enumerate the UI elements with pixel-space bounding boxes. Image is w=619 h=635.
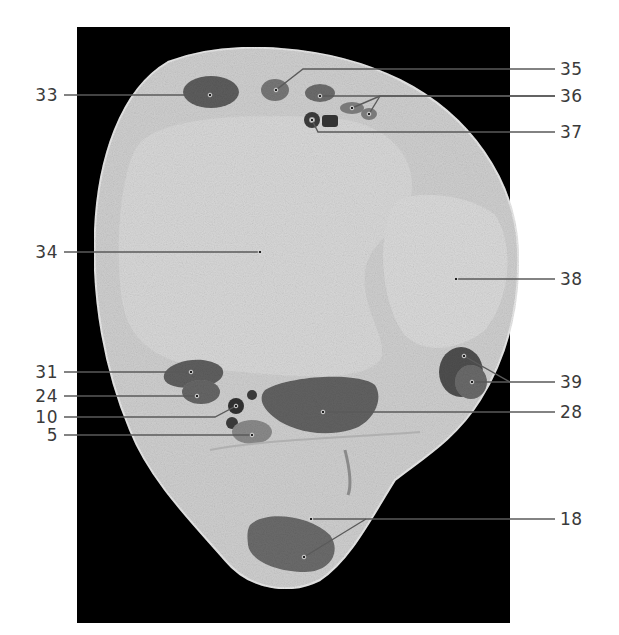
label-38: 38 xyxy=(560,269,600,289)
label-5: 5 xyxy=(6,425,58,445)
muscle-33 xyxy=(183,76,239,108)
label-31: 31 xyxy=(6,362,58,382)
label-10: 10 xyxy=(6,407,58,427)
large-bone-region xyxy=(119,116,412,376)
muscle-24 xyxy=(182,380,220,404)
label-18: 18 xyxy=(560,509,600,529)
label-28: 28 xyxy=(560,402,600,422)
label-34: 34 xyxy=(6,242,58,262)
label-24: 24 xyxy=(6,386,58,406)
label-36: 36 xyxy=(560,86,600,106)
label-37: 37 xyxy=(560,122,600,142)
label-33: 33 xyxy=(6,85,58,105)
anatomical-figure: 33 34 31 24 10 5 35 36 37 38 39 28 18 xyxy=(0,0,619,635)
label-35: 35 xyxy=(560,59,600,79)
small-bone-region xyxy=(383,195,507,348)
label-39: 39 xyxy=(560,372,600,392)
specimen-illustration xyxy=(0,0,619,635)
